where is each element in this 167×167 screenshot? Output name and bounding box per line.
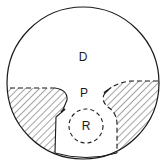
- label-p: P: [80, 86, 88, 100]
- left-hatched-region: [0, 88, 67, 160]
- right-hatched-region: [103, 81, 167, 160]
- label-r: R: [82, 119, 91, 133]
- label-d: D: [79, 50, 88, 64]
- diagram-figure: D P R: [0, 0, 167, 167]
- diagram-canvas: D P R: [0, 0, 167, 167]
